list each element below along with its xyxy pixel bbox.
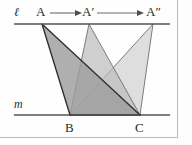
arrow-a-to-aprime bbox=[50, 10, 82, 16]
figure-canvas bbox=[0, 0, 192, 145]
point-label-a: A bbox=[36, 5, 45, 18]
point-label-b: B bbox=[65, 121, 74, 134]
arrow-aprime-to-adoubleprime bbox=[97, 10, 144, 16]
point-label-a-double-prime: A″ bbox=[146, 5, 161, 18]
point-label-a-prime: A′ bbox=[82, 5, 94, 18]
geometry-figure: ℓ m A A′ A″ B C bbox=[0, 0, 192, 145]
point-label-c: C bbox=[135, 121, 144, 134]
line-ell-label: ℓ bbox=[14, 6, 19, 18]
line-m-label: m bbox=[14, 98, 23, 110]
vertex-c-marker bbox=[139, 114, 141, 116]
vertex-b-marker bbox=[69, 114, 71, 116]
